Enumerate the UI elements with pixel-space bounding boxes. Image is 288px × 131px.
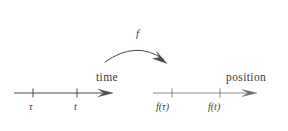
position-axis-label: position xyxy=(226,72,266,84)
function-arrow-label: f xyxy=(136,28,139,39)
time-axis-label: time xyxy=(96,72,118,84)
function-arrow-head xyxy=(153,52,167,64)
position-tick-label-f-t: f(t) xyxy=(208,102,220,112)
position-axis-group xyxy=(153,89,257,98)
time-tick-label-t: t xyxy=(74,102,77,112)
time-tick-label-tau: τ xyxy=(29,102,33,112)
math-figure: time position τ t f(τ) f(t) f xyxy=(0,0,288,131)
time-axis-group xyxy=(14,89,113,98)
function-arrow-curve xyxy=(105,50,163,62)
mapping-arrow-group xyxy=(105,50,167,63)
position-tick-label-f-tau: f(τ) xyxy=(156,102,169,112)
figure-graphics xyxy=(0,0,288,131)
